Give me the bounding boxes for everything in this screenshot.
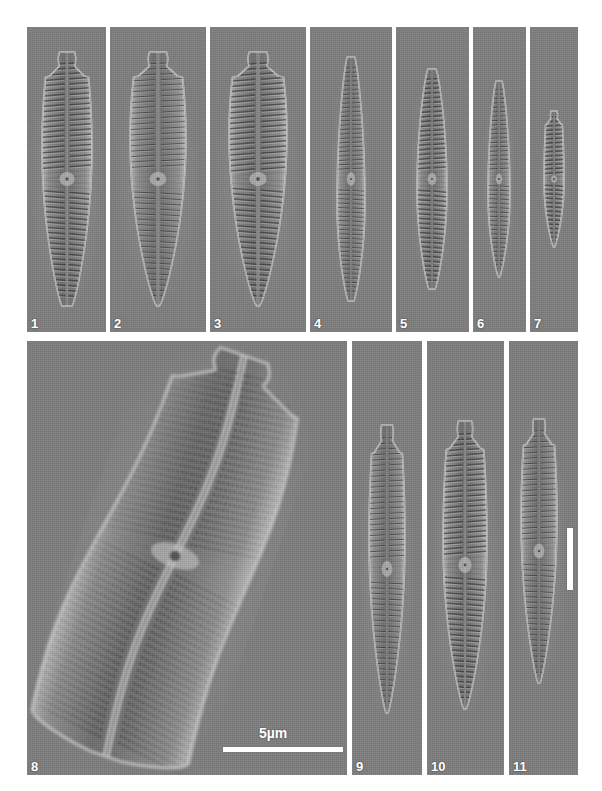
panel-number-1: 1	[31, 316, 38, 331]
diatom-plate: 123456785µm91011	[0, 0, 602, 791]
scale-bar-vertical	[567, 528, 573, 590]
scale-bar-horizontal	[223, 747, 343, 752]
diatom-valve-2	[117, 39, 199, 319]
panel-number-10: 10	[431, 759, 445, 774]
diatom-valve-6	[475, 68, 523, 290]
micrograph-panel-4: 4	[310, 27, 392, 332]
diatom-valve-11	[509, 406, 570, 696]
panel-number-7: 7	[534, 316, 541, 331]
diatom-valve-10	[430, 408, 500, 722]
diatom-valve-7	[531, 98, 577, 260]
micrograph-panel-9: 9	[352, 341, 422, 775]
panel-number-9: 9	[356, 759, 363, 774]
panel-number-6: 6	[477, 316, 484, 331]
micrograph-panel-10: 10	[427, 341, 504, 775]
micrograph-panel-1: 1	[27, 27, 106, 332]
panel-number-3: 3	[214, 316, 221, 331]
panel-number-8: 8	[31, 759, 38, 774]
micrograph-panel-8: 85µm	[27, 341, 347, 775]
diatom-valve-3	[216, 39, 300, 319]
diatom-valve-5	[404, 56, 460, 302]
panel-number-4: 4	[314, 316, 321, 331]
micrograph-panel-11: 11	[509, 341, 578, 775]
panel-number-5: 5	[400, 316, 407, 331]
scale-bar-label: 5µm	[259, 725, 287, 741]
diatom-valve-4	[324, 44, 378, 314]
diatom-valve-8	[27, 341, 339, 775]
micrograph-panel-5: 5	[396, 27, 469, 332]
diatom-valve-1	[29, 39, 105, 319]
diatom-valve-9	[356, 412, 418, 726]
micrograph-panel-2: 2	[110, 27, 206, 332]
panel-number-2: 2	[114, 316, 121, 331]
micrograph-panel-3: 3	[210, 27, 306, 332]
panel-number-11: 11	[513, 759, 527, 774]
micrograph-panel-7: 7	[530, 27, 578, 332]
micrograph-panel-6: 6	[473, 27, 526, 332]
